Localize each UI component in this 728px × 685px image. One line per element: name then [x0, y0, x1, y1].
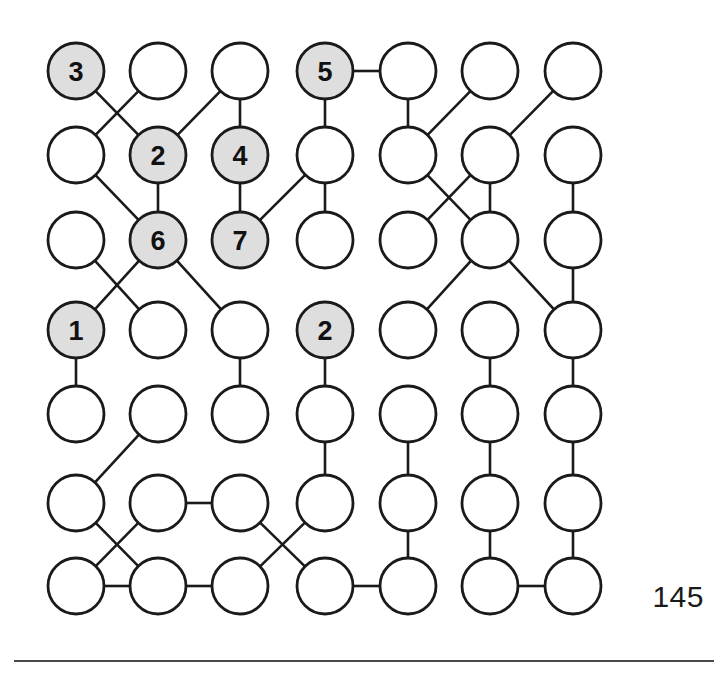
grid-graph-figure: 35246712	[0, 0, 728, 640]
graph-node-labeled: 5	[297, 43, 353, 99]
graph-node	[212, 43, 268, 99]
node-circle-plain	[462, 127, 518, 183]
graph-node	[545, 558, 601, 614]
graph-edge	[177, 90, 221, 135]
graph-edge	[176, 260, 222, 310]
graph-edge	[426, 260, 472, 310]
graph-node	[212, 302, 268, 358]
node-circle-plain	[212, 558, 268, 614]
graph-node-labeled: 4	[212, 127, 268, 183]
node-circle-plain	[48, 475, 104, 531]
node-circle-plain	[462, 43, 518, 99]
node-circle-plain	[380, 127, 436, 183]
graph-edge	[509, 90, 554, 136]
graph-node	[380, 212, 436, 268]
graph-node	[380, 386, 436, 442]
graph-node	[48, 127, 104, 183]
graph-node	[545, 475, 601, 531]
node-circle-plain	[297, 475, 353, 531]
graph-node-labeled: 2	[130, 127, 186, 183]
graph-edge	[95, 174, 140, 220]
graph-edge	[508, 260, 554, 310]
graph-node-labeled: 6	[130, 212, 186, 268]
node-circle-plain	[297, 558, 353, 614]
graph-node	[462, 386, 518, 442]
graph-node	[545, 212, 601, 268]
graph-node-labeled: 2	[297, 302, 353, 358]
graph-node	[48, 212, 104, 268]
graph-node	[212, 475, 268, 531]
node-circle-plain	[380, 43, 436, 99]
node-circle-plain	[545, 212, 601, 268]
node-circle-plain	[130, 558, 186, 614]
node-circle-plain	[462, 212, 518, 268]
graph-node	[380, 558, 436, 614]
graph-edge	[259, 174, 306, 221]
node-circle-plain	[212, 475, 268, 531]
graph-node	[130, 43, 186, 99]
node-circle-plain	[297, 212, 353, 268]
node-circle-plain	[130, 43, 186, 99]
node-label: 7	[232, 226, 247, 256]
graph-node	[462, 212, 518, 268]
node-circle-plain	[48, 558, 104, 614]
graph-node	[380, 43, 436, 99]
graph-node	[545, 43, 601, 99]
graph-node	[297, 127, 353, 183]
node-circle-plain	[462, 302, 518, 358]
graph-node	[212, 558, 268, 614]
graph-node	[545, 127, 601, 183]
graph-edge	[427, 90, 471, 135]
node-circle-plain	[212, 43, 268, 99]
node-circle-plain	[380, 558, 436, 614]
node-circle-plain	[380, 212, 436, 268]
node-circle-plain	[130, 302, 186, 358]
node-circle-plain	[545, 127, 601, 183]
graph-node-labeled: 3	[48, 43, 104, 99]
graph-node	[380, 127, 436, 183]
node-circle-plain	[545, 302, 601, 358]
node-circle-plain	[462, 475, 518, 531]
node-circle-plain	[48, 212, 104, 268]
graph-node	[48, 558, 104, 614]
figure-root: 35246712 145	[0, 0, 728, 685]
graph-node	[297, 475, 353, 531]
node-label: 2	[317, 316, 332, 346]
graph-node	[462, 558, 518, 614]
graph-node	[212, 386, 268, 442]
graph-edge	[94, 434, 139, 483]
node-circle-plain	[545, 558, 601, 614]
graph-node	[297, 212, 353, 268]
graph-node	[462, 127, 518, 183]
node-circle-plain	[545, 386, 601, 442]
node-circle-plain	[380, 475, 436, 531]
node-circle-plain	[545, 475, 601, 531]
graph-node	[462, 302, 518, 358]
graph-node-labeled: 7	[212, 212, 268, 268]
graph-node	[48, 475, 104, 531]
node-circle-plain	[48, 386, 104, 442]
graph-node	[545, 386, 601, 442]
node-circle-plain	[130, 386, 186, 442]
node-label: 5	[317, 57, 332, 87]
node-label: 4	[232, 141, 247, 171]
graph-node-labeled: 1	[48, 302, 104, 358]
graph-node	[380, 475, 436, 531]
node-circle-plain	[212, 302, 268, 358]
node-circle-plain	[212, 386, 268, 442]
graph-node	[297, 386, 353, 442]
node-label: 2	[150, 141, 165, 171]
graph-node	[130, 302, 186, 358]
node-circle-plain	[48, 127, 104, 183]
node-label: 3	[68, 57, 83, 87]
node-circle-plain	[130, 475, 186, 531]
graph-node	[130, 475, 186, 531]
page-number: 145	[652, 580, 704, 614]
node-label: 1	[68, 316, 83, 346]
graph-node	[48, 386, 104, 442]
node-circle-plain	[380, 302, 436, 358]
graph-node	[545, 302, 601, 358]
graph-node	[297, 558, 353, 614]
node-circle-plain	[380, 386, 436, 442]
node-label: 6	[150, 226, 165, 256]
